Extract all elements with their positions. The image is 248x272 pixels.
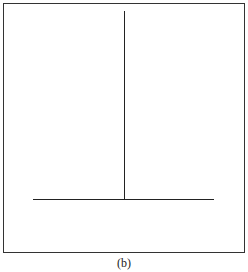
figure-caption: (b) bbox=[0, 256, 248, 271]
vertical-line bbox=[124, 11, 125, 200]
horizontal-line bbox=[33, 199, 214, 200]
